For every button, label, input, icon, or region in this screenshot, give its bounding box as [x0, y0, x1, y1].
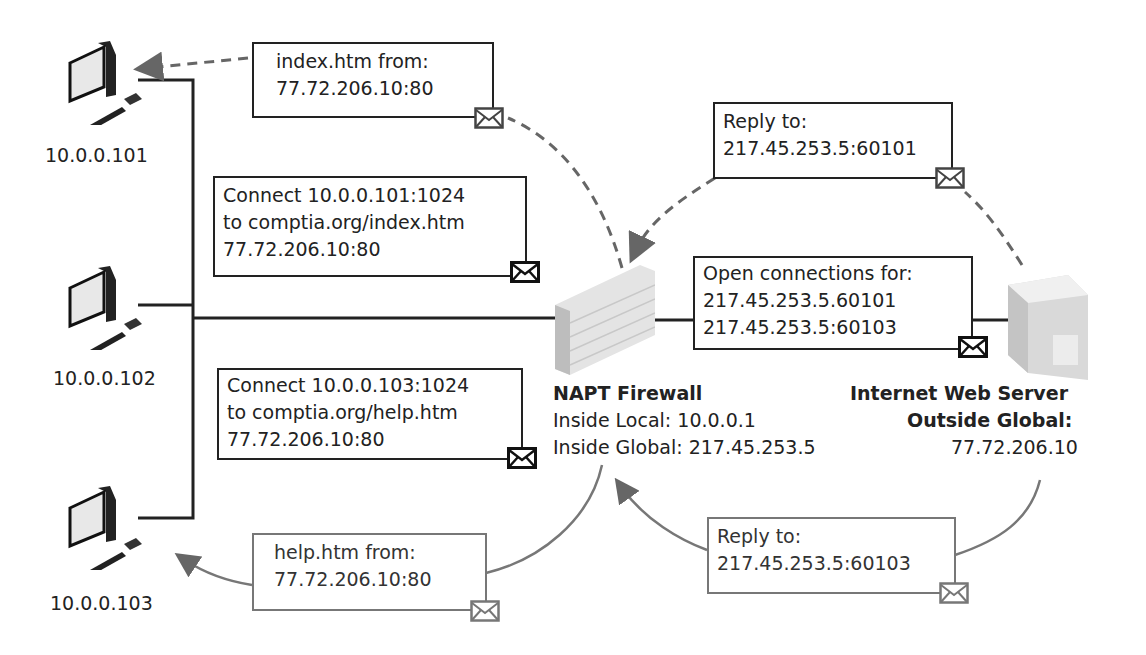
- message-open-connections: Open connections for: 217.45.253.5.60101…: [693, 256, 973, 350]
- envelope-icon: [935, 167, 965, 189]
- message-connect-103: Connect 10.0.0.103:1024 to comptia.org/h…: [217, 368, 523, 460]
- firewall-inside-global: Inside Global: 217.45.253.5: [553, 434, 816, 461]
- message-line: 217.45.253.5:60103: [703, 314, 963, 341]
- envelope-icon: [958, 336, 988, 358]
- message-line: 77.72.206.10:80: [276, 75, 484, 102]
- message-line: Reply to:: [717, 523, 946, 550]
- server-title: Internet Web Server: [850, 380, 1068, 407]
- desktop-computer-icon: [60, 35, 150, 125]
- server-ip: 77.72.206.10: [951, 434, 1078, 461]
- desktop-computer-icon: [60, 260, 150, 350]
- message-line: help.htm from:: [274, 539, 477, 566]
- message-line: 217.45.253.5:60103: [717, 550, 946, 577]
- desktop-computer-icon: [60, 480, 150, 570]
- message-line: 77.72.206.10:80: [223, 236, 517, 263]
- message-line: Connect 10.0.0.103:1024: [227, 372, 513, 399]
- envelope-icon: [510, 261, 540, 283]
- message-line: Open connections for:: [703, 260, 963, 287]
- message-line: to comptia.org/index.htm: [223, 209, 517, 236]
- brick-wall-icon: [555, 265, 655, 375]
- message-line: Connect 10.0.0.101:1024: [223, 182, 517, 209]
- envelope-icon: [470, 600, 500, 622]
- message-line: 217.45.253.5.60101: [703, 287, 963, 314]
- firewall-device: [555, 265, 655, 375]
- message-help-from: help.htm from: 77.72.206.10:80: [252, 533, 487, 611]
- message-line: 217.45.253.5:60101: [723, 135, 943, 162]
- client-pc-103: [60, 480, 150, 570]
- client-ip-101: 10.0.0.101: [45, 142, 148, 169]
- message-line: index.htm from:: [276, 48, 484, 75]
- envelope-icon: [507, 447, 537, 469]
- message-line: 77.72.206.10:80: [274, 566, 477, 593]
- message-line: 77.72.206.10:80: [227, 426, 513, 453]
- message-line: Reply to:: [723, 108, 943, 135]
- firewall-inside-local: Inside Local: 10.0.0.1: [553, 407, 756, 434]
- client-pc-102: [60, 260, 150, 350]
- server-subtitle: Outside Global:: [907, 407, 1072, 434]
- message-index-from: index.htm from: 77.72.206.10:80: [252, 42, 494, 118]
- message-connect-101: Connect 10.0.0.101:1024 to comptia.org/i…: [213, 176, 527, 277]
- message-reply-60103: Reply to: 217.45.253.5:60103: [707, 517, 956, 594]
- message-line: to comptia.org/help.htm: [227, 399, 513, 426]
- message-reply-60101: Reply to: 217.45.253.5:60101: [713, 102, 953, 179]
- client-ip-103: 10.0.0.103: [50, 590, 153, 617]
- client-pc-101: [60, 35, 150, 125]
- envelope-icon: [939, 582, 969, 604]
- firewall-title: NAPT Firewall: [553, 380, 702, 407]
- web-server-device: [1008, 275, 1093, 380]
- server-tower-icon: [1008, 275, 1093, 380]
- client-ip-102: 10.0.0.102: [53, 365, 156, 392]
- envelope-icon: [474, 107, 504, 129]
